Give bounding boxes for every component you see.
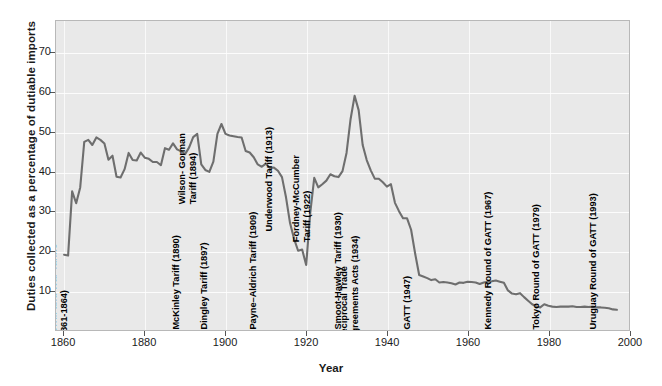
x-tick-label: 1860 xyxy=(33,336,93,348)
chart-annotation: Tokyo Round of GATT (1979) xyxy=(532,204,543,329)
tariff-line-chart: Duties collected as a percentage of duti… xyxy=(0,0,662,386)
y-tick-label: 40 xyxy=(17,166,51,177)
x-tick-label: 1940 xyxy=(357,336,417,348)
chart-annotation: Reciprocal Trade Agreements Acts (1934) xyxy=(339,236,360,331)
chart-annotation: Uruguay Round of GATT (1993) xyxy=(589,193,600,329)
x-axis-title: Year xyxy=(0,362,662,374)
chart-annotation: Dingley Tariff (1897) xyxy=(200,242,211,329)
x-tick-label: 2000 xyxy=(600,336,660,348)
x-tick-label: 1900 xyxy=(195,336,255,348)
y-tick-label: 70 xyxy=(17,46,51,57)
x-tick-label: 1920 xyxy=(276,336,336,348)
x-tick-label: 1960 xyxy=(438,336,498,348)
chart-annotation: Underwood Tariff (1913) xyxy=(265,127,276,232)
chart-annotation: Kennedy Round of GATT (1967) xyxy=(483,192,494,330)
chart-annotation: Wilson- Gorman Tariff (1894) xyxy=(177,133,198,204)
y-tick-label: 20 xyxy=(17,245,51,256)
y-tick-label: 10 xyxy=(17,285,51,296)
chart-annotation: Morrill and War Tariffs (1861-1864) xyxy=(55,244,69,331)
x-tick-label: 1980 xyxy=(519,336,579,348)
chart-annotation: GATT (1947) xyxy=(402,276,413,330)
y-tick-label: 30 xyxy=(17,205,51,216)
plot-area: Morrill and War Tariffs (1861-1864)McKin… xyxy=(55,20,630,331)
y-tick-label: 60 xyxy=(17,86,51,97)
chart-annotation: Payne–Aldrich Tariff (1909) xyxy=(248,212,259,330)
x-tick-label: 1880 xyxy=(114,336,174,348)
chart-annotation: McKinley Tariff (1890) xyxy=(171,235,182,329)
y-tick-label: 50 xyxy=(17,126,51,137)
chart-annotation: Fordney-McCumber Tariff (1922) xyxy=(290,155,311,242)
